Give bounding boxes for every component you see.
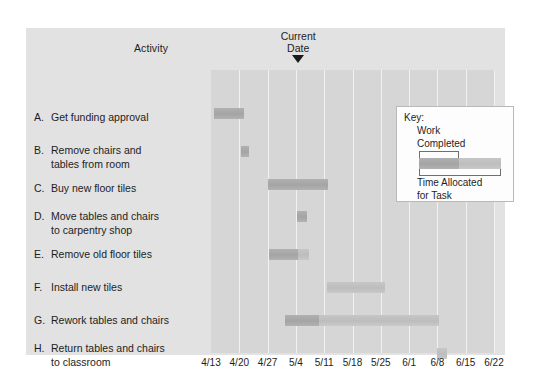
activity-row-a: A.Get funding approval — [34, 111, 204, 125]
activity-label-line2: tables from room — [51, 158, 130, 170]
activity-label: Remove chairs andtables from room — [51, 144, 204, 171]
gantt-bar-completed-a — [214, 108, 244, 119]
activity-row-h: H.Return tables and chairsto classroom — [34, 342, 204, 369]
x-tick-6-22: 6/22 — [474, 357, 514, 368]
activity-letter: D. — [34, 210, 48, 224]
activity-letter: B. — [34, 144, 48, 158]
activity-letter: C. — [34, 182, 48, 196]
gantt-bar-completed-d — [297, 211, 307, 222]
gridline-5-11 — [324, 70, 325, 353]
x-axis-tick-labels: 4/134/204/275/45/115/185/256/16/86/156/2… — [211, 357, 494, 373]
current-date-label-line1: Current — [281, 30, 316, 42]
activity-row-b: B.Remove chairs andtables from room — [34, 144, 204, 171]
chart-legend: Key: Work Completed Time Allocated for T… — [396, 106, 514, 202]
current-date-marker: Current Date — [261, 30, 335, 63]
gantt-bar-f — [327, 282, 385, 293]
gantt-bar-completed-b — [241, 146, 249, 157]
legend-bracket-top — [419, 151, 459, 158]
gantt-bar-completed-c — [268, 179, 329, 190]
gantt-bar-g — [285, 315, 439, 326]
activity-label: Install new tiles — [51, 281, 204, 295]
gantt-bar-d — [297, 211, 307, 222]
gantt-bar-completed-e — [269, 249, 298, 260]
activity-letter: H. — [34, 342, 48, 356]
activity-label-line2: to carpentry shop — [51, 224, 132, 236]
activity-label: Get funding approval — [51, 111, 204, 125]
activity-row-f: F.Install new tiles — [34, 281, 204, 295]
activity-label: Buy new floor tiles — [51, 182, 204, 196]
activity-row-g: G.Rework tables and chairs — [34, 314, 204, 328]
gantt-bar-c — [268, 179, 329, 190]
current-date-label-line2: Date — [287, 42, 309, 54]
activity-letter: F. — [34, 281, 48, 295]
legend-bracket-bottom — [419, 169, 501, 176]
activity-letter: E. — [34, 248, 48, 262]
gantt-bar-b — [241, 146, 249, 157]
activity-row-c: C.Buy new floor tiles — [34, 182, 204, 196]
activity-label-line2: to classroom — [51, 356, 111, 368]
activity-label: Remove old floor tiles — [51, 248, 204, 262]
activity-row-e: E.Remove old floor tiles — [34, 248, 204, 262]
activity-letter: G. — [34, 314, 48, 328]
chart-panel: Activity A.Get funding approvalB.Remove … — [26, 28, 505, 355]
gantt-bar-e — [269, 249, 309, 260]
gantt-bar-completed-g — [285, 315, 319, 326]
activity-label: Move tables and chairsto carpentry shop — [51, 210, 204, 237]
activity-letter: A. — [34, 111, 48, 125]
activity-column-header: Activity — [86, 42, 216, 54]
legend-work-completed-label: Work Completed — [417, 125, 465, 150]
gridline-5-25 — [381, 70, 382, 353]
activity-row-d: D.Move tables and chairsto carpentry sho… — [34, 210, 204, 237]
gridline-5-18 — [353, 70, 354, 353]
gantt-bar-a — [214, 108, 244, 119]
activity-label: Return tables and chairsto classroom — [51, 342, 204, 369]
legend-time-allocated-label: Time Allocated for Task — [417, 177, 482, 202]
legend-sample-bar-completed — [419, 158, 459, 169]
activity-label: Rework tables and chairs — [51, 314, 204, 328]
gridline-4-27 — [268, 70, 269, 353]
down-triangle-icon — [292, 55, 304, 63]
legend-title: Key: — [404, 112, 424, 123]
legend-sample-bar — [419, 158, 501, 169]
